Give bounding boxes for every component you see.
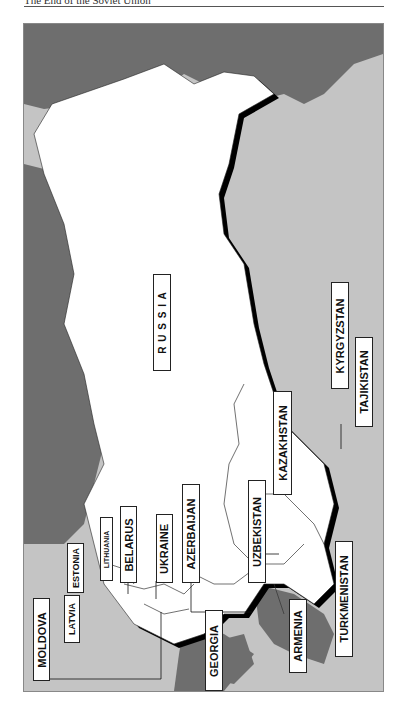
label-russia: R U S S I A [153,274,171,371]
label-turkmenistan: TURKMENISTAN [335,541,353,657]
label-lithuania: LITHUANIA [100,517,113,581]
label-azerbaijan: AZERBAIJAN [182,484,200,583]
label-tajikistan: TAJIKISTAN [355,337,373,427]
soviet-republics-map: R U S S I A MOLDOVA LATVIA ESTONIA LITHU… [23,23,384,692]
label-kyrgyzstan: KYRGYZSTAN [331,282,349,389]
label-kazakhstan: KAZAKHSTAN [273,391,292,495]
header-rule [24,6,384,7]
label-ukraine: UKRAINE [156,514,173,583]
label-armenia: ARMENIA [289,599,307,673]
label-uzbekistan: UZBEKISTAN [248,480,266,583]
label-latvia: LATVIA [64,595,80,643]
label-moldova: MOLDOVA [33,598,50,681]
label-belarus: BELARUS [120,506,137,583]
label-estonia: ESTONIA [67,543,84,593]
label-georgia: GEORGIA [205,610,223,691]
